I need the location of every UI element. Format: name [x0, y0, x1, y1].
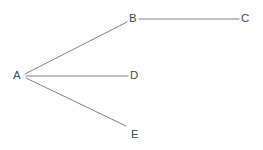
node-label-b: B: [129, 12, 137, 24]
node-label-e: E: [131, 128, 139, 140]
node-label-c: C: [241, 12, 249, 24]
diagram-canvas: A B C D E: [0, 0, 263, 150]
node-label-d: D: [130, 69, 138, 81]
edge-a-b: [25, 22, 127, 74]
node-label-a: A: [13, 69, 21, 81]
edge-a-e: [26, 78, 126, 126]
